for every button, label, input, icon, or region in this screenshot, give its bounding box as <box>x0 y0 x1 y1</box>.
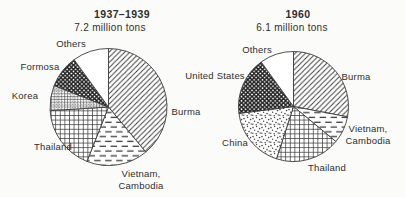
chart-subtitle: 7.2 million tons <box>74 22 146 33</box>
pie-label-united-states: United States <box>185 70 245 82</box>
pie-label-others: Others <box>242 44 272 56</box>
pie-label-thailand: Thailand <box>34 141 72 153</box>
pie-label-others: Others <box>56 38 86 50</box>
pie-label-korea: Korea <box>12 90 38 102</box>
rice-exports-pie-figure: 1937–1939 7.2 million tons 1960 6.1 mill… <box>0 0 405 197</box>
pie-label-formosa: Formosa <box>21 61 60 73</box>
chart-header-1937-1939: 1937–1939 7.2 million tons <box>86 8 158 33</box>
chart-subtitle: 6.1 million tons <box>256 22 328 33</box>
pie-label-vietnam-cambodia: Vietnam, Cambodia <box>119 168 164 193</box>
pie-label-burma: Burma <box>172 106 201 118</box>
pie-label-burma: Burma <box>342 71 371 83</box>
pie-slice-burma <box>294 52 349 117</box>
chart-title: 1960 <box>262 8 334 20</box>
pie-label-vietnam-cambodia: Vietnam, Cambodia <box>346 123 391 148</box>
pie-label-china: China <box>222 137 248 149</box>
chart-title: 1937–1939 <box>86 8 158 20</box>
pie-label-thailand: Thailand <box>308 162 346 174</box>
chart-header-1960: 1960 6.1 million tons <box>262 8 334 33</box>
